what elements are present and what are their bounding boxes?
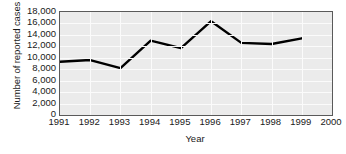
data-series-line xyxy=(60,12,332,115)
vertical-gridline xyxy=(302,12,303,115)
horizontal-gridline xyxy=(60,23,332,24)
y-axis-tick-label: 8,000 xyxy=(16,63,56,73)
y-axis-tick-label: 16,000 xyxy=(16,18,56,28)
vertical-gridline xyxy=(241,12,242,115)
vertical-gridline xyxy=(151,12,152,115)
horizontal-gridline xyxy=(60,104,332,105)
vertical-gridline xyxy=(181,12,182,115)
vertical-gridline xyxy=(90,12,91,115)
y-axis-tick-label: 4,000 xyxy=(16,86,56,96)
y-axis-tick-label: 10,000 xyxy=(16,52,56,62)
y-axis-tick-label: 18,000 xyxy=(16,6,56,16)
x-axis-tick-labels: 1991199219931994199519961997199819992000 xyxy=(59,117,331,130)
horizontal-gridline xyxy=(60,35,332,36)
horizontal-gridline xyxy=(60,69,332,70)
vertical-gridline xyxy=(120,12,121,115)
y-axis-tick-label: 2,000 xyxy=(16,98,56,108)
plot-area xyxy=(59,11,333,116)
x-axis-tick-label: 2000 xyxy=(311,117,346,127)
vertical-gridline xyxy=(272,12,273,115)
horizontal-gridline xyxy=(60,58,332,59)
plot-grid xyxy=(60,12,332,115)
y-axis-tick-labels: 02,0004,0006,0008,00010,00012,00014,0001… xyxy=(16,11,56,114)
x-axis-title: Year xyxy=(59,133,331,144)
vertical-gridline xyxy=(211,12,212,115)
y-axis-tick-label: 14,000 xyxy=(16,29,56,39)
horizontal-gridline xyxy=(60,46,332,47)
horizontal-gridline xyxy=(60,81,332,82)
y-axis-tick-label: 6,000 xyxy=(16,75,56,85)
y-axis-tick-label: 12,000 xyxy=(16,41,56,51)
horizontal-gridline xyxy=(60,92,332,93)
